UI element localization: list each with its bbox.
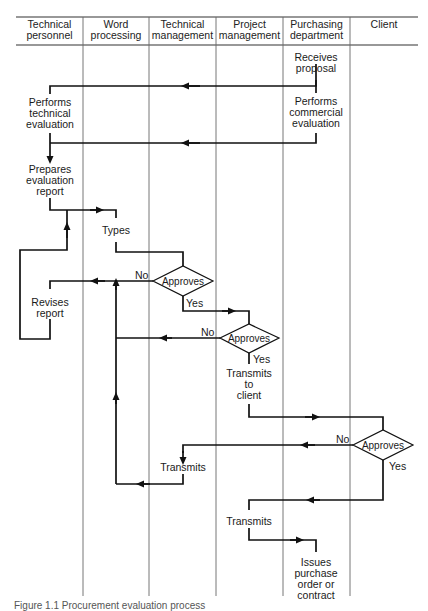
decision-approves-client: Approves [362, 440, 404, 451]
node-issues-purchase-order: Issues purchase order or contract [294, 557, 337, 601]
decision-approves-project: Approves [228, 333, 270, 344]
lane-header-line: management [216, 30, 283, 41]
lane-header-word-processing: Word processing [83, 19, 149, 45]
lane-header-purchasing-department: Purchasing department [283, 19, 350, 45]
label-client-yes: Yes [389, 461, 406, 472]
lane-header-technical-personnel: Technical personnel [16, 19, 83, 45]
label-client-no: No [336, 434, 349, 445]
lane-header-line: Client [350, 19, 418, 30]
node-revises-report: Revises report [31, 297, 68, 319]
lane-header-project-management: Project management [216, 19, 283, 45]
label-tech-no: No [135, 270, 148, 281]
label-tech-yes: Yes [186, 298, 203, 309]
node-transmits-revision: Transmits [160, 462, 206, 473]
node-transmits-approval: Transmits [226, 516, 272, 527]
lane-header-line: processing [83, 30, 149, 41]
figure-caption: Figure 1.1 Procurement evaluation proces… [14, 600, 205, 611]
lane-header-line: personnel [16, 30, 83, 41]
lane-header-line: management [149, 30, 216, 41]
node-prepares-evaluation-report: Prepares evaluation report [26, 164, 74, 197]
label-project-yes: Yes [253, 354, 270, 365]
lane-header-line: department [283, 30, 350, 41]
lane-header-technical-management: Technical management [149, 19, 216, 45]
node-receives-proposal: Receives proposal [294, 52, 337, 74]
label-project-no: No [201, 327, 214, 338]
lane-header-client: Client [350, 19, 418, 45]
node-types: Types [102, 225, 130, 236]
node-transmits-to-client: Transmits to client [226, 368, 272, 401]
node-performs-commercial-evaluation: Performs commercial evaluation [289, 96, 343, 129]
decision-approves-technical: Approves [162, 276, 204, 287]
node-performs-technical-evaluation: Performs technical evaluation [26, 97, 74, 130]
